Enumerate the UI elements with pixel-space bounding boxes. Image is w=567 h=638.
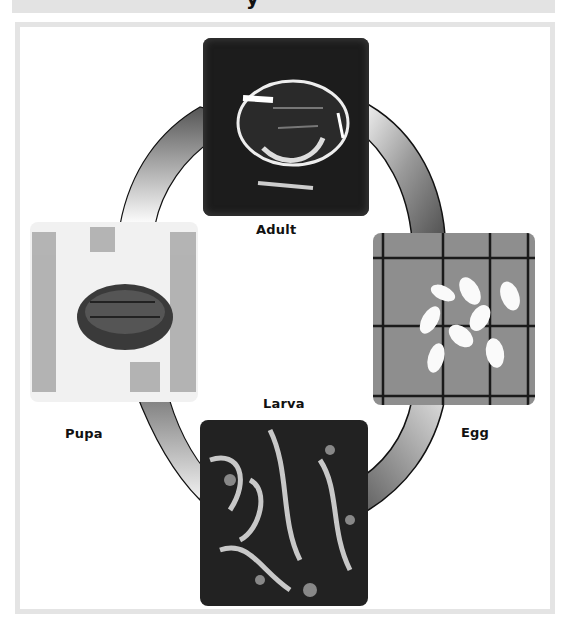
label-egg: Egg <box>461 425 489 440</box>
eggs-on-grid-icon <box>373 233 535 405</box>
stage-image-pupa <box>30 222 198 402</box>
label-larva: Larva <box>263 396 305 411</box>
flea-larvae-icon <box>200 420 368 606</box>
stage-image-adult <box>203 38 369 216</box>
stage-image-larva <box>200 420 368 606</box>
label-adult: Adult <box>256 222 296 237</box>
label-pupa: Pupa <box>65 426 103 441</box>
flea-adult-icon <box>203 38 369 216</box>
flea-pupa-icon <box>30 222 198 402</box>
stage-image-egg <box>373 233 535 405</box>
